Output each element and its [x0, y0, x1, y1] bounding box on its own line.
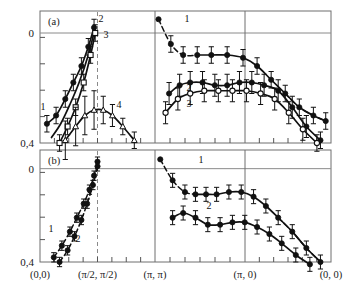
panel-a-seg2-series-2-marker	[166, 91, 171, 96]
panel-a-seg2-series-1-marker	[195, 52, 200, 57]
panel-a-seg2-series-1-marker	[323, 118, 328, 123]
panel-a-seg2-series-3-marker	[244, 88, 249, 93]
panel-a-seg2-series-2-marker	[212, 83, 217, 88]
panel-a-seg2-series-1-marker	[181, 52, 186, 57]
panel-b-seg2-series-2-marker	[170, 215, 175, 220]
panel-b-curve-label-1: 1	[199, 154, 204, 165]
panel-a-seg1-series-1-marker	[44, 121, 49, 126]
panel-b-seg2-series-2-marker	[218, 222, 223, 227]
panel-b-seg2-series-1-marker	[182, 189, 187, 194]
panel-b-seg1-series-1-marker	[59, 243, 64, 248]
panel-a-seg2-series-1-marker	[168, 41, 173, 46]
panel-a-seg2-series-1-marker	[225, 52, 230, 57]
panel-a-curve-label-3: 3	[187, 98, 192, 109]
panel-a-curve-label-3: 3	[104, 29, 109, 40]
panel-b-seg2-series-1-marker	[304, 245, 309, 250]
panel-a-curve-label-1: 1	[41, 101, 46, 112]
panel-a-seg2-series-3-marker	[230, 88, 235, 93]
panel-b-seg2-series-2-marker	[293, 252, 298, 257]
panel-a-seg2-series-3-marker	[286, 110, 291, 115]
panel-b-seg2-series-2-marker	[254, 224, 259, 229]
panel-a-seg2-series-2-marker	[249, 80, 254, 85]
panel-b-seg1-series-2-marker	[90, 182, 95, 187]
panel-a-curve-label-1: 1	[185, 13, 190, 24]
panel-a-seg2-series-3-marker	[258, 91, 263, 96]
panel-b-seg1-series-2-marker	[57, 259, 62, 264]
panel-a-seg1-series-1-curve-solid	[47, 28, 94, 124]
panel-a-seg2-series-3-marker	[163, 110, 168, 115]
panel-a-seg1-series-3-marker	[93, 31, 98, 36]
panel-b-y-label-bottom: 0,4	[20, 256, 34, 268]
panel-b-seg1-series-2-marker	[85, 201, 90, 206]
dispersion-figure: 00,400,4(0,0)(π/2, π/2)(π, π)(π, 0)(0, 0…	[0, 0, 357, 290]
panel-a-seg1-series-1-marker	[63, 96, 68, 101]
panel-a-seg2-series-1-marker	[209, 52, 214, 57]
panel-a-curve-label-4: 4	[117, 99, 122, 110]
panel-a-seg2-series-1-marker	[156, 17, 161, 22]
panel-a-seg2-series-2-marker	[225, 83, 230, 88]
panel-a-seg2-series-2-marker	[290, 105, 295, 110]
panel-a-seg2-series-1-marker	[311, 113, 316, 118]
panel-b-seg2-series-1-marker	[290, 229, 295, 234]
panel-b-seg2-series-2-marker	[267, 231, 272, 236]
panel-a-seg2-series-1-marker	[269, 77, 274, 82]
panel-a-curve-label-2: 2	[187, 82, 192, 93]
panel-b-seg2-series-2-curve-solid	[173, 213, 310, 264]
panel-b-seg2-series-1-marker	[263, 203, 268, 208]
panel-a-seg1-series-3-marker	[57, 141, 62, 146]
panel-b-seg2-series-1-marker	[170, 178, 175, 183]
panel-a-seg1-series-1-marker	[71, 80, 76, 85]
panel-a-seg1-series-3-marker	[88, 53, 93, 58]
panel-b-seg1-series-1-marker	[67, 229, 72, 234]
x-tick-label-1: (π/2, π/2)	[78, 269, 118, 281]
panel-b-seg2-series-2-marker	[242, 220, 247, 225]
panel-b-curve-label-1: 1	[49, 223, 54, 234]
panel-a-seg2-series-1-marker	[240, 55, 245, 60]
panel-b-seg2-series-2-marker	[205, 222, 210, 227]
panel-b-seg2-series-2-marker	[230, 220, 235, 225]
panel-b-seg2-series-2-marker	[279, 241, 284, 246]
panel-a-seg1-series-3-marker	[65, 124, 70, 129]
x-tick-label-3: (π, 0)	[234, 269, 257, 281]
panel-a-y-label-zero: 0	[29, 27, 35, 39]
panel-a-curve-label-2: 2	[99, 13, 104, 24]
panel-b-seg2-series-1-marker	[276, 215, 281, 220]
panel-b-seg1-series-2-marker	[79, 217, 84, 222]
panel-a-seg2-series-3-marker	[202, 88, 207, 93]
panel-a-tag: (a)	[48, 16, 60, 28]
panel-a-seg2-series-1-marker	[254, 63, 259, 68]
x-tick-label-4: (0, 0)	[320, 269, 343, 281]
panel-b-y-label-zero: 0	[29, 163, 35, 175]
panel-b-seg2-series-1-marker	[214, 192, 219, 197]
panel-a-seg2-series-2-marker	[237, 80, 242, 85]
panel-a-seg2-series-2-marker	[177, 83, 182, 88]
panel-b-seg2-series-1-marker	[203, 192, 208, 197]
panel-b-seg2-series-2-marker	[193, 215, 198, 220]
panel-a-seg1-series-1-marker	[54, 113, 59, 118]
panel-a-seg2-series-3-marker	[175, 96, 180, 101]
panel-a-y-label-bottom: 0,4	[20, 137, 34, 149]
panel-b-curve-label-2: 2	[76, 233, 81, 244]
panel-a-seg2-series-3-marker	[314, 140, 319, 145]
panel-a-seg2-series-1-curve-dashed	[159, 19, 198, 56]
panel-b-seg2-series-1-marker	[226, 189, 231, 194]
panel-b-seg2-series-1-marker	[251, 194, 256, 199]
panel-b-seg1-series-2-marker	[95, 164, 100, 169]
panel-b-seg1-series-1-marker	[51, 255, 56, 260]
panel-b-curve-label-2: 2	[207, 200, 212, 211]
panel-b-seg2-series-2-marker	[307, 262, 312, 267]
panel-b-seg2-series-1-marker	[318, 259, 323, 264]
panel-b-seg2-series-2-marker	[181, 210, 186, 215]
panel-b-seg2-series-1-marker	[193, 192, 198, 197]
x-tick-label-0: (0,0)	[30, 269, 51, 281]
x-tick-label-2: (π, π)	[144, 269, 167, 281]
panel-b-seg2-series-1-marker	[239, 189, 244, 194]
panel-a-seg2-series-3-marker	[272, 96, 277, 101]
panel-a-seg1-series-3-marker	[81, 80, 86, 85]
panel-b-seg1-series-2-marker	[65, 248, 70, 253]
panel-a-seg2-series-1-marker	[297, 105, 302, 110]
panel-a-seg1-series-1-marker	[79, 63, 84, 68]
panel-a-seg2-series-2-marker	[262, 83, 267, 88]
panel-b-seg2-series-1-marker	[158, 157, 163, 162]
panel-a-seg2-series-3-marker	[216, 88, 221, 93]
